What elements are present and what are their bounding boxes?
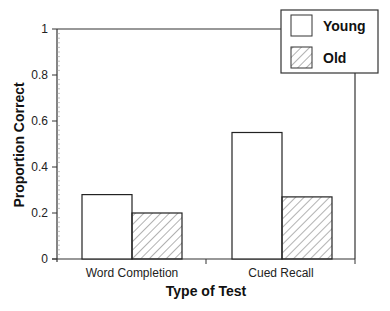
y-axis: 00.20.40.60.81 (31, 22, 60, 266)
y-tick-label: 0.8 (31, 68, 48, 82)
bars (82, 133, 332, 260)
bar-old-word-completion (132, 213, 182, 259)
bar-old-cued-recall (282, 197, 332, 259)
x-axis: Word Completion Cued Recall (52, 259, 355, 280)
legend-label-young: Young (323, 18, 366, 34)
bar-young-cued-recall (232, 133, 282, 260)
legend-swatch-old (291, 47, 312, 68)
x-axis-title: Type of Test (166, 283, 247, 299)
bar-chart: 00.20.40.60.81 Word Completion Cued Reca… (0, 0, 390, 311)
y-axis-title: Proportion Correct (11, 82, 27, 208)
x-tick-cued-recall: Cued Recall (248, 266, 313, 280)
y-tick-label: 1 (41, 22, 48, 36)
y-tick-label: 0 (41, 252, 48, 266)
bar-young-word-completion (82, 195, 132, 259)
y-tick-label: 0.6 (31, 114, 48, 128)
y-tick-labels: 00.20.40.60.81 (31, 22, 57, 266)
legend-swatch-young (291, 15, 312, 36)
legend: Young Old (281, 10, 378, 73)
y-tick-label: 0.4 (31, 160, 48, 174)
legend-label-old: Old (323, 50, 346, 66)
x-tick-word-completion: Word Completion (86, 266, 178, 280)
y-tick-label: 0.2 (31, 206, 48, 220)
